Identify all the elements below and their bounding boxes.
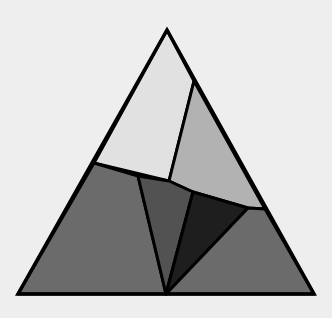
- triangle-dissection-diagram: [0, 0, 332, 318]
- pieces-group: [18, 30, 314, 294]
